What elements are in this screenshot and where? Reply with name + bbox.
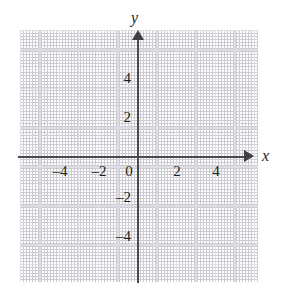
x-tick-label-neg2: –2 [92, 164, 107, 179]
x-tick-label-neg4: –4 [53, 164, 68, 179]
x-tick-label-2: 2 [173, 164, 181, 179]
y-tick-label-4: 4 [124, 71, 132, 86]
origin-label: 0 [125, 164, 133, 179]
x-tick-label-4: 4 [212, 164, 220, 179]
y-tick-label-neg2: –2 [116, 190, 131, 205]
coordinate-plane-figure: x y –4 –2 0 2 4 4 2 –2 –4 [0, 0, 285, 295]
y-axis-arrow-icon [132, 30, 144, 40]
y-axis-label: y [131, 10, 138, 26]
y-tick-label-neg4: –4 [116, 229, 131, 244]
x-axis-label: x [262, 148, 269, 164]
x-axis-arrow-icon [244, 150, 254, 162]
y-tick-label-2: 2 [124, 110, 132, 125]
y-axis-line [137, 38, 139, 283]
x-axis-line [18, 156, 252, 158]
